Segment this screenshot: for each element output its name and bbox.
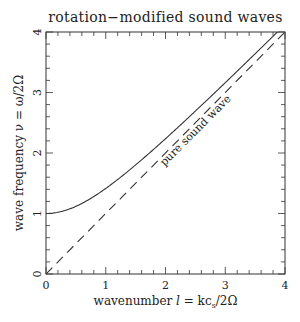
x-tick-label: 3	[222, 279, 229, 292]
chart: rotation−modified sound waves 01234 0123…	[0, 0, 300, 322]
y-tick-label: 0	[31, 271, 44, 278]
y-axis-label: wave frequency ν = ω/2Ω	[12, 75, 26, 231]
y-tick-label: 4	[31, 29, 44, 36]
pure-sound-wave-annotation: pure sound wave	[157, 92, 233, 168]
x-tick-label: 2	[162, 279, 169, 292]
y-tick-labels: 01234	[31, 29, 44, 278]
x-tick-label: 4	[282, 279, 289, 292]
x-axis-label: wavenumber l = kcs/2Ω	[94, 294, 238, 310]
x-tick-label: 1	[102, 279, 109, 292]
rotation-modified-curve	[46, 25, 285, 214]
y-tick-label: 2	[31, 150, 44, 157]
chart-title: rotation−modified sound waves	[48, 9, 282, 25]
y-tick-label: 1	[31, 210, 44, 217]
y-tick-label: 3	[31, 89, 44, 96]
x-tick-labels: 01234	[43, 279, 289, 292]
x-tick-label: 0	[43, 279, 50, 292]
